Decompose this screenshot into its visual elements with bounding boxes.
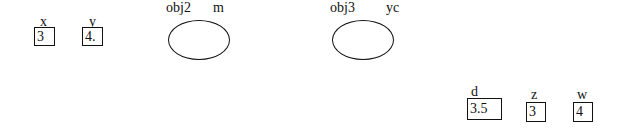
variable-w-value: 4 xyxy=(576,105,583,119)
variable-z-box: 3 xyxy=(526,102,546,122)
variable-d-value: 3.5 xyxy=(470,102,488,116)
variable-y-box: 4. xyxy=(82,27,103,46)
variable-z-label: z xyxy=(531,88,537,102)
variable-z-value: 3 xyxy=(529,105,536,119)
variable-y-value: 4. xyxy=(85,30,96,44)
object-obj3-ref-label: yc xyxy=(386,1,399,15)
object-obj2-ref-label: m xyxy=(213,1,224,15)
variable-w-label: w xyxy=(577,88,587,102)
variable-d-label: d xyxy=(471,85,478,99)
object-obj2-label: obj2 xyxy=(166,1,191,15)
object-obj3-ellipse xyxy=(332,20,394,60)
object-obj2-ellipse xyxy=(168,20,230,60)
variable-x-value: 3 xyxy=(37,30,44,44)
object-obj3-label: obj3 xyxy=(330,1,355,15)
variable-d-box: 3.5 xyxy=(467,98,502,120)
variable-x-box: 3 xyxy=(34,27,55,46)
variable-w-box: 4 xyxy=(573,102,593,122)
